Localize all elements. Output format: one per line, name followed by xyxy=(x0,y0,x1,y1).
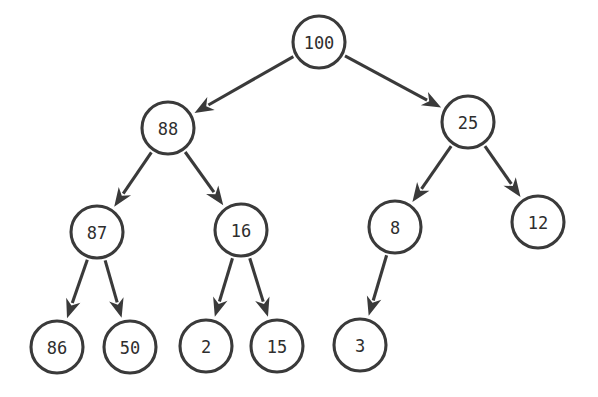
tree-node-label: 2 xyxy=(201,337,211,357)
tree-edge xyxy=(185,152,223,205)
tree-node-label: 8 xyxy=(390,218,400,238)
tree-edge xyxy=(345,56,441,108)
tree-node-label: 15 xyxy=(267,337,287,357)
tree-edge xyxy=(195,57,294,113)
tree-node-label: 86 xyxy=(47,338,67,358)
tree-edge xyxy=(114,152,151,206)
tree-node[interactable]: 3 xyxy=(334,319,386,371)
tree-node-label: 16 xyxy=(231,221,251,241)
tree-node[interactable]: 87 xyxy=(71,206,123,258)
nodes-group: 1008825871681286502153 xyxy=(31,16,564,373)
tree-edge xyxy=(367,255,387,315)
tree-edge-line xyxy=(72,260,87,303)
tree-node[interactable]: 16 xyxy=(215,204,267,256)
tree-edge-arrowhead xyxy=(114,187,131,207)
tree-node-label: 3 xyxy=(355,336,365,356)
tree-node-label: 87 xyxy=(87,223,107,243)
tree-node-label: 25 xyxy=(458,113,478,133)
tree-node-label: 100 xyxy=(304,33,335,53)
tree-node[interactable]: 50 xyxy=(104,321,156,373)
tree-node[interactable]: 100 xyxy=(293,16,345,68)
tree-edge xyxy=(412,146,451,202)
tree-node[interactable]: 86 xyxy=(31,321,83,373)
tree-edge-line xyxy=(105,260,117,302)
tree-edge-line xyxy=(219,258,232,301)
tree-edge-line xyxy=(373,255,386,300)
tree-edge-line xyxy=(345,56,427,100)
tree-node[interactable]: 8 xyxy=(369,201,421,253)
tree-edge-line xyxy=(485,146,511,184)
tree-edge xyxy=(66,260,87,318)
tree-edge-arrowhead xyxy=(206,185,223,205)
tree-node[interactable]: 2 xyxy=(180,320,232,372)
tree-edge xyxy=(485,146,521,197)
edges-group xyxy=(66,56,520,318)
diagram-canvas: 1008825871681286502153 xyxy=(0,0,598,397)
tree-node[interactable]: 12 xyxy=(512,196,564,248)
tree-edge xyxy=(213,258,232,317)
tree-edge xyxy=(105,260,123,317)
tree-node[interactable]: 15 xyxy=(251,320,303,372)
tree-edge-line xyxy=(123,152,151,193)
tree-edge-arrowhead xyxy=(503,177,520,197)
tree-node-label: 88 xyxy=(158,119,178,139)
tree-node-label: 12 xyxy=(528,213,548,233)
tree-edge-line xyxy=(208,57,293,105)
tree-edge-line xyxy=(250,258,263,301)
tree-node[interactable]: 88 xyxy=(142,102,194,154)
tree-edge-line xyxy=(185,152,214,192)
tree-edge-line xyxy=(422,146,452,189)
tree-edge xyxy=(250,258,270,317)
binary-tree-diagram: 1008825871681286502153 xyxy=(0,0,598,397)
tree-node-label: 50 xyxy=(120,338,140,358)
tree-edge-arrowhead xyxy=(195,97,215,113)
tree-edge-arrowhead xyxy=(412,182,429,202)
tree-node[interactable]: 25 xyxy=(442,96,494,148)
